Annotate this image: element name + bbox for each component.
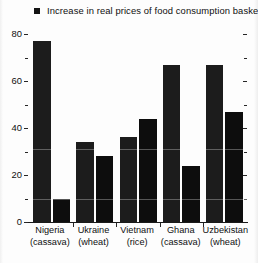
y-axis-tick-minor [25, 58, 28, 59]
bar [182, 166, 200, 222]
x-axis-category-crop: (cassava) [159, 237, 203, 249]
x-axis-group-tick [73, 223, 74, 227]
chart-figure: Increase in real prices of food consumpt… [0, 0, 258, 263]
y-axis-tick-minor [25, 105, 28, 106]
y-axis-tick-minor-right [244, 105, 247, 106]
y-axis-tick-major-right [243, 34, 247, 35]
x-axis-category-crop: (wheat) [72, 237, 116, 249]
x-axis-category-crop: (cassava) [28, 237, 72, 249]
chart-legend: Increase in real prices of food consumpt… [0, 2, 258, 20]
x-axis-group-tick [116, 223, 117, 227]
x-axis-category-label: Ukraine(wheat) [72, 225, 116, 261]
y-axis: 020406080 [0, 0, 22, 263]
x-axis-category-label: Ghana(cassava) [159, 225, 203, 261]
y-axis-tick-label: 80 [12, 29, 22, 39]
x-axis-category-label: Uzbekistan(wheat) [203, 225, 248, 261]
x-axis-category-name: Uzbekistan [203, 225, 248, 237]
x-axis-category-name: Vietnam [115, 225, 159, 237]
legend-square-marker-icon [34, 8, 40, 14]
bar [120, 137, 138, 222]
y-axis-tick-label: 60 [12, 76, 22, 86]
y-axis-tick-major-right [243, 128, 247, 129]
legend-label: Increase in real prices of food consumpt… [47, 6, 258, 16]
bar [76, 142, 94, 222]
bar [139, 119, 157, 222]
y-axis-tick-minor-right [244, 58, 247, 59]
y-axis-tick-major-right [243, 81, 247, 82]
page-edge-right [254, 0, 258, 263]
x-axis-group-tick [160, 223, 161, 227]
y-axis-tick-minor-right [244, 199, 247, 200]
x-axis-category-label: Vietnam(rice) [115, 225, 159, 261]
x-axis-category-label: Nigeria(cassava) [28, 225, 72, 261]
bar [163, 65, 181, 222]
y-axis-tick-major [24, 128, 28, 129]
y-axis-tick-label: 0 [17, 217, 22, 227]
x-axis-category-crop: (wheat) [203, 237, 248, 249]
x-axis-labels: Nigeria(cassava)Ukraine(wheat)Vietnam(ri… [28, 225, 248, 261]
plot-area [30, 34, 246, 222]
y-axis-tick-label: 40 [12, 123, 22, 133]
x-axis-category-name: Ghana [159, 225, 203, 237]
y-axis-tick-major [24, 81, 28, 82]
x-axis-category-name: Ukraine [72, 225, 116, 237]
bar [33, 41, 51, 222]
x-axis-line [28, 222, 248, 223]
y-axis-tick-minor-right [244, 152, 247, 153]
y-axis-tick-major-right [243, 175, 247, 176]
bar [53, 199, 71, 223]
x-axis-group-tick [203, 223, 204, 227]
y-axis-tick-minor [25, 152, 28, 153]
y-axis-tick-major [24, 175, 28, 176]
y-axis-tick-major [24, 34, 28, 35]
bar [206, 65, 224, 222]
x-axis-category-crop: (rice) [115, 237, 159, 249]
x-axis-category-name: Nigeria [28, 225, 72, 237]
y-axis-tick-major [24, 222, 28, 223]
y-axis-tick-minor [25, 199, 28, 200]
bar [225, 112, 243, 222]
bar [96, 156, 114, 222]
y-axis-tick-label: 20 [12, 170, 22, 180]
